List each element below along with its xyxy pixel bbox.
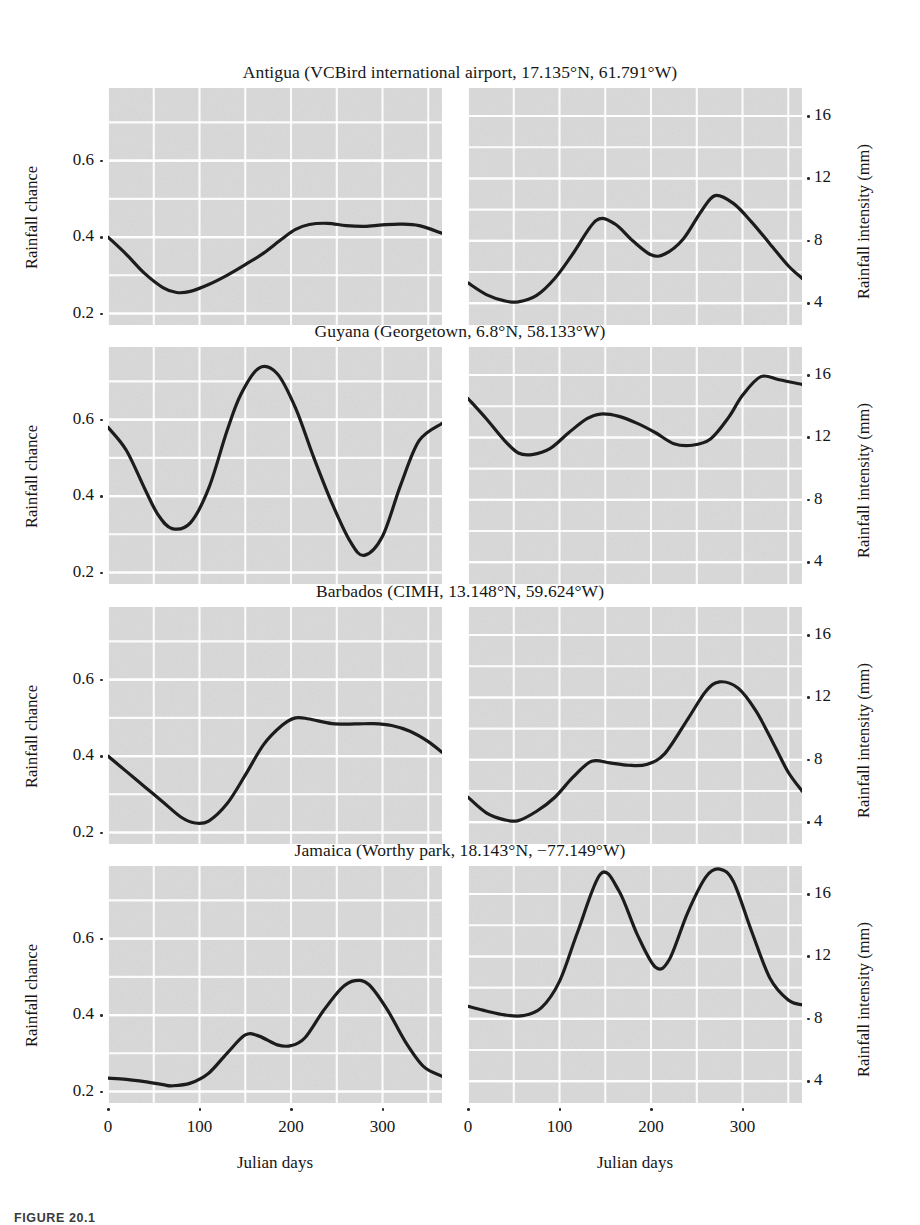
plot-antigua-left xyxy=(108,88,442,325)
ytick-mark xyxy=(100,832,103,835)
ytick-mark xyxy=(100,1091,103,1094)
panel-title-antigua: Antigua (VCBird international airport, 1… xyxy=(0,62,920,83)
plot-antigua-right xyxy=(468,88,802,325)
ytick-label-barbados-right-3: 16 xyxy=(814,624,854,644)
plot-jamaica-right xyxy=(468,866,802,1103)
ytick-mark xyxy=(100,938,103,941)
ytick-mark xyxy=(807,634,810,637)
axis-title-rainfall-intensity: Rainfall intensity (mm) xyxy=(854,663,874,818)
ytick-mark xyxy=(807,499,810,502)
plot-barbados-left xyxy=(108,607,442,844)
axis-title-rainfall-intensity: Rainfall intensity (mm) xyxy=(854,922,874,1077)
ytick-label-antigua-right-1: 8 xyxy=(814,230,854,250)
axis-title-rainfall-chance: Rainfall chance xyxy=(22,424,42,527)
ytick-mark xyxy=(807,302,810,305)
ytick-mark xyxy=(100,495,103,498)
ytick-mark xyxy=(100,572,103,575)
ytick-label-antigua-right-2: 12 xyxy=(814,167,854,187)
xtick-mark xyxy=(559,1108,562,1111)
ytick-mark xyxy=(807,821,810,824)
ytick-label-jamaica-left-2: 0.6 xyxy=(46,928,94,948)
ytick-mark xyxy=(807,1018,810,1021)
ytick-label-barbados-left-0: 0.2 xyxy=(46,822,94,842)
ytick-label-guyana-right-0: 4 xyxy=(814,551,854,571)
ytick-label-barbados-left-2: 0.6 xyxy=(46,669,94,689)
ytick-mark xyxy=(807,177,810,180)
ytick-label-guyana-right-3: 16 xyxy=(814,364,854,384)
plot-guyana-left xyxy=(108,347,442,584)
ytick-label-jamaica-right-1: 8 xyxy=(814,1008,854,1028)
panel-title-jamaica: Jamaica (Worthy park, 18.143°N, −77.149°… xyxy=(0,840,920,861)
plot-jamaica-left xyxy=(108,866,442,1103)
ytick-label-barbados-left-1: 0.4 xyxy=(46,745,94,765)
ytick-label-guyana-right-2: 12 xyxy=(814,426,854,446)
ytick-mark xyxy=(100,755,103,758)
xtick-label-right-1: 100 xyxy=(530,1117,590,1137)
axis-title-julian-days: Julian days xyxy=(108,1153,442,1173)
ytick-label-jamaica-right-2: 12 xyxy=(814,945,854,965)
ytick-mark xyxy=(100,679,103,682)
ytick-mark xyxy=(807,436,810,439)
ytick-mark xyxy=(807,561,810,564)
ytick-label-jamaica-right-0: 4 xyxy=(814,1070,854,1090)
ytick-mark xyxy=(807,893,810,896)
ytick-mark xyxy=(807,374,810,377)
ytick-label-jamaica-left-1: 0.4 xyxy=(46,1004,94,1024)
ytick-label-antigua-left-2: 0.6 xyxy=(46,150,94,170)
ytick-label-jamaica-right-3: 16 xyxy=(814,883,854,903)
xtick-label-left-3: 300 xyxy=(353,1117,413,1137)
xtick-mark xyxy=(650,1108,653,1111)
xtick-label-left-0: 0 xyxy=(78,1117,138,1137)
panel-title-barbados: Barbados (CIMH, 13.148°N, 59.624°W) xyxy=(0,581,920,602)
xtick-mark xyxy=(382,1108,385,1111)
ytick-mark xyxy=(807,240,810,243)
ytick-label-antigua-left-0: 0.2 xyxy=(46,303,94,323)
xtick-label-right-0: 0 xyxy=(438,1117,498,1137)
xtick-mark xyxy=(467,1108,470,1111)
plot-barbados-right xyxy=(468,607,802,844)
xtick-label-left-1: 100 xyxy=(170,1117,230,1137)
ytick-mark xyxy=(100,160,103,163)
ytick-label-guyana-left-0: 0.2 xyxy=(46,562,94,582)
figure-caption: FIGURE 20.1 xyxy=(14,1211,96,1225)
ytick-mark xyxy=(807,1080,810,1083)
axis-title-julian-days: Julian days xyxy=(468,1153,802,1173)
axis-title-rainfall-chance: Rainfall chance xyxy=(22,684,42,787)
ytick-mark xyxy=(100,419,103,422)
ytick-label-antigua-left-1: 0.4 xyxy=(46,226,94,246)
ytick-label-guyana-left-2: 0.6 xyxy=(46,409,94,429)
xtick-label-right-3: 300 xyxy=(713,1117,773,1137)
ytick-label-antigua-right-0: 4 xyxy=(814,292,854,312)
plot-guyana-right xyxy=(468,347,802,584)
panel-title-guyana: Guyana (Georgetown, 6.8°N, 58.133°W) xyxy=(0,321,920,342)
ytick-mark xyxy=(100,1014,103,1017)
ytick-label-guyana-left-1: 0.4 xyxy=(46,485,94,505)
ytick-mark xyxy=(807,696,810,699)
axis-title-rainfall-intensity: Rainfall intensity (mm) xyxy=(854,403,874,558)
xtick-label-left-2: 200 xyxy=(261,1117,321,1137)
axis-title-rainfall-intensity: Rainfall intensity (mm) xyxy=(854,144,874,299)
ytick-mark xyxy=(807,115,810,118)
xtick-mark xyxy=(199,1108,202,1111)
ytick-label-barbados-right-1: 8 xyxy=(814,749,854,769)
ytick-label-barbados-right-2: 12 xyxy=(814,686,854,706)
xtick-mark xyxy=(107,1108,110,1111)
ytick-mark xyxy=(807,759,810,762)
axis-title-rainfall-chance: Rainfall chance xyxy=(22,943,42,1046)
ytick-mark xyxy=(807,955,810,958)
axis-title-rainfall-chance: Rainfall chance xyxy=(22,165,42,268)
figure-container: Antigua (VCBird international airport, 1… xyxy=(0,0,920,1225)
xtick-mark xyxy=(290,1108,293,1111)
xtick-mark xyxy=(742,1108,745,1111)
ytick-label-antigua-right-3: 16 xyxy=(814,105,854,125)
ytick-label-jamaica-left-0: 0.2 xyxy=(46,1081,94,1101)
ytick-mark xyxy=(100,236,103,239)
ytick-label-guyana-right-1: 8 xyxy=(814,489,854,509)
ytick-mark xyxy=(100,313,103,316)
xtick-label-right-2: 200 xyxy=(621,1117,681,1137)
ytick-label-barbados-right-0: 4 xyxy=(814,811,854,831)
